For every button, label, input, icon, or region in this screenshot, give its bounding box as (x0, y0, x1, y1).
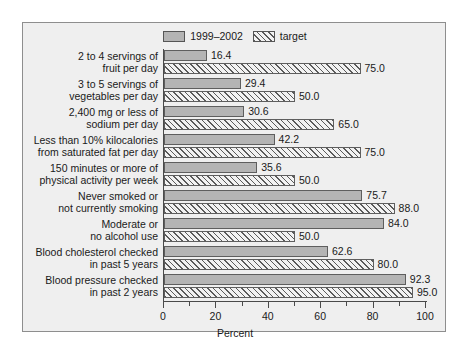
category-label-line: 2 to 4 servings of (0, 50, 158, 62)
category-label-line: physical activity per week (0, 174, 158, 186)
category-label: 3 to 5 servings ofvegetables per day (0, 78, 158, 102)
category-label-line: from saturated fat per day (0, 146, 158, 158)
bar-group: 30.665.0 (164, 105, 426, 133)
bar-value-label: 62.6 (328, 246, 352, 257)
category-label-line: in past 5 years (0, 258, 158, 270)
bar-series-observed[interactable] (164, 50, 207, 61)
category-label-line: Never smoked or (0, 190, 158, 202)
category-label-line: not currently smoking (0, 202, 158, 214)
category-label: Blood cholesterol checkedin past 5 years (0, 246, 158, 270)
axis-tick-major (163, 302, 164, 308)
bar-group: 35.650.0 (164, 161, 426, 189)
bar-value-label: 92.3 (406, 274, 430, 285)
chart-figure: 1999–2002target 16.475.029.450.030.665.0… (0, 0, 466, 353)
bar-group: 92.395.0 (164, 273, 426, 301)
axis-tick-minor (399, 302, 400, 306)
bar-series-observed[interactable] (164, 218, 384, 229)
category-label-line: Blood pressure checked (0, 274, 158, 286)
category-label-line: vegetables per day (0, 90, 158, 102)
category-label: 2,400 mg or less ofsodium per day (0, 106, 158, 130)
bar-group: 29.450.0 (164, 77, 426, 105)
category-label: Blood pressure checkedin past 2 years (0, 274, 158, 298)
legend-entry[interactable]: 1999–2002 (163, 31, 243, 42)
bar-value-label: 75.7 (362, 190, 386, 201)
axis-tick-major (425, 302, 426, 308)
axis-tick-major (373, 302, 374, 308)
category-label-line: Blood cholesterol checked (0, 246, 158, 258)
bar-group: 16.475.0 (164, 49, 426, 77)
bar-value-label: 16.4 (207, 50, 231, 61)
bar-series-target[interactable] (164, 175, 295, 186)
bar-series-observed[interactable] (164, 246, 328, 257)
bar-group: 75.788.0 (164, 189, 426, 217)
category-label-line: Less than 10% kilocalories (0, 134, 158, 146)
category-label-line: 2,400 mg or less of (0, 106, 158, 118)
bar-value-label: 35.6 (257, 162, 281, 173)
category-label: 2 to 4 servings offruit per day (0, 50, 158, 74)
bar-value-label: 84.0 (384, 218, 408, 229)
legend-swatch-hatch-icon (253, 31, 275, 42)
x-axis-label: Percent (23, 327, 447, 339)
bar-value-label: 50.0 (295, 175, 319, 186)
bar-value-label: 95.0 (413, 287, 437, 298)
bar-series-target[interactable] (164, 231, 295, 242)
axis-tick-minor (346, 302, 347, 306)
axis-tick-major (215, 302, 216, 308)
bar-series-target[interactable] (164, 119, 334, 130)
axis-tick-minor (294, 302, 295, 306)
value-axis-line (163, 301, 427, 302)
bar-value-label: 65.0 (334, 119, 358, 130)
axis-tick-label: 80 (367, 310, 379, 322)
axis-tick-major (320, 302, 321, 308)
category-label: Never smoked ornot currently smoking (0, 190, 158, 214)
category-label: Less than 10% kilocaloriesfrom saturated… (0, 134, 158, 158)
bar-group: 84.050.0 (164, 217, 426, 245)
category-label: Moderate orno alcohol use (0, 218, 158, 242)
category-label-line: 3 to 5 servings of (0, 78, 158, 90)
bar-value-label: 75.0 (361, 63, 385, 74)
legend-label: 1999–2002 (190, 31, 243, 42)
bar-series-observed[interactable] (164, 274, 406, 285)
axis-tick-label: 20 (210, 310, 222, 322)
bar-value-label: 80.0 (374, 259, 398, 270)
bar-value-label: 88.0 (395, 203, 419, 214)
category-label-line: 150 minutes or more of (0, 162, 158, 174)
plot-area: 16.475.029.450.030.665.042.275.035.650.0… (164, 49, 426, 301)
bar-group: 42.275.0 (164, 133, 426, 161)
axis-tick-label: 40 (262, 310, 274, 322)
axis-tick-minor (242, 302, 243, 306)
category-label-line: in past 2 years (0, 286, 158, 298)
axis-tick-label: 60 (314, 310, 326, 322)
bar-series-target[interactable] (164, 259, 374, 270)
bar-series-target[interactable] (164, 63, 361, 74)
bar-value-label: 30.6 (244, 106, 268, 117)
bar-series-target[interactable] (164, 203, 395, 214)
bar-value-label: 50.0 (295, 231, 319, 242)
legend-swatch-solid-icon (163, 31, 185, 42)
bar-series-target[interactable] (164, 91, 295, 102)
chart-legend: 1999–2002target (23, 25, 447, 47)
axis-tick-label: 0 (160, 310, 166, 322)
bar-series-target[interactable] (164, 147, 361, 158)
bar-value-label: 75.0 (361, 147, 385, 158)
category-label-line: sodium per day (0, 118, 158, 130)
bar-series-observed[interactable] (164, 162, 257, 173)
legend-entry[interactable]: target (253, 31, 307, 42)
legend-label: target (280, 31, 307, 42)
bar-series-observed[interactable] (164, 134, 275, 145)
bar-series-observed[interactable] (164, 106, 244, 117)
axis-tick-label: 100 (416, 310, 434, 322)
category-label-line: no alcohol use (0, 230, 158, 242)
bar-series-observed[interactable] (164, 190, 362, 201)
bar-series-observed[interactable] (164, 78, 241, 89)
bar-series-target[interactable] (164, 287, 413, 298)
category-label-line: Moderate or (0, 218, 158, 230)
category-label-line: fruit per day (0, 62, 158, 74)
bar-value-label: 29.4 (241, 78, 265, 89)
bar-group: 62.680.0 (164, 245, 426, 273)
chart-panel: 1999–2002target 16.475.029.450.030.665.0… (22, 22, 446, 332)
axis-tick-minor (189, 302, 190, 306)
category-label: 150 minutes or more ofphysical activity … (0, 162, 158, 186)
bar-value-label: 50.0 (295, 91, 319, 102)
axis-tick-major (268, 302, 269, 308)
